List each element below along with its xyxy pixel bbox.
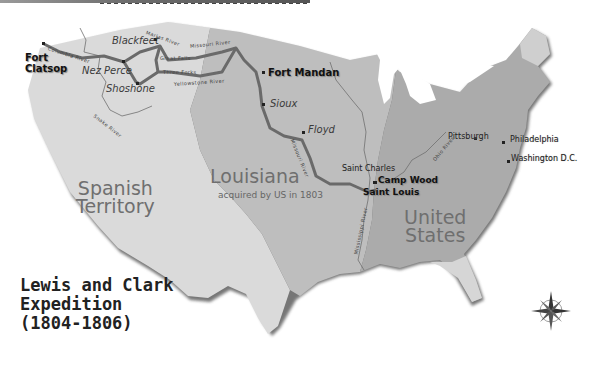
compass-rose-icon [531,291,571,331]
label-fort-mandan: Fort Mandan [268,68,339,78]
label-sioux: Sioux [270,99,298,109]
label-saint-charles: Saint Charles [342,165,395,173]
title-line-1: Lewis and Clark [20,276,174,295]
louisiana-subtitle: acquired by US in 1803 [218,191,323,200]
label-great-falls: Great Falls [160,56,191,61]
label-floyd: Floyd [308,125,335,135]
us-line2: States [404,226,466,244]
label-nez-perce: Nez Perce [82,66,132,76]
label-three-forks: Three Forks [163,70,197,75]
label-washington-dc: Washington D.C. [511,155,577,163]
region-label-spanish-territory: Spanish Territory [76,179,155,215]
title-line-3: (1804-1806) [20,314,174,333]
region-label-louisiana: Louisiana [210,167,300,185]
label-philadelphia: Philadelphia [510,136,559,144]
label-saint-louis: Saint Louis [363,188,419,197]
region-label-united-states: United States [404,208,466,244]
map-title: Lewis and Clark Expedition (1804-1806) [20,276,174,333]
label-camp-wood: Camp Wood [378,176,438,185]
title-line-2: Expedition [20,295,174,314]
fort-clatsop-line2: Clatsop [25,63,67,74]
label-shoshone: Shoshone [106,84,155,94]
spanish-line2: Territory [76,197,155,215]
florida [430,256,482,302]
